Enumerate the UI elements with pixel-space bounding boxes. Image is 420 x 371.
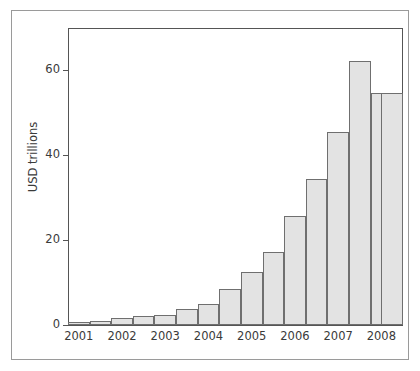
bar [381,93,403,325]
y-axis-tick-label: 0 [26,319,60,331]
y-axis-tick [63,70,68,71]
bar [68,322,90,325]
bar [219,289,241,325]
bar [327,132,349,325]
bar [176,309,198,325]
bar [263,252,285,325]
y-axis-tick-label: 60 [26,64,60,76]
bars-layer [68,28,403,325]
bar [133,316,155,325]
bar [306,179,328,325]
bar [349,61,371,325]
x-axis-tick-label: 2008 [351,330,411,342]
bar [198,304,220,325]
bar [90,321,112,325]
chart-figure: 0204060 20012002200320042005200620072008… [0,0,420,371]
bar [241,272,263,325]
bar [284,216,306,325]
y-axis-tick [63,155,68,156]
y-axis-tick [63,325,68,326]
bar [154,315,176,325]
x-axis-line [68,325,403,326]
y-axis-title: USD trillions [26,97,40,217]
y-axis-tick-label: 20 [26,234,60,246]
y-axis-tick [63,240,68,241]
bar [111,318,133,325]
